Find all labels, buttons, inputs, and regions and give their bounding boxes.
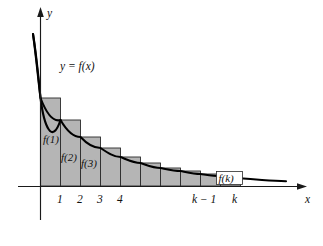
tick-label-3: 3 [96,193,103,205]
x-axis-label: x [304,193,311,205]
x-tick-labels: 1 2 3 4 k − 1 k [57,193,238,205]
riemann-rectangles [41,98,241,186]
y-axis-arrowhead [37,7,44,17]
curve-label: y = f(x) [59,60,95,73]
bar-label-f-k: f(k) [219,172,235,185]
integral-test-figure: y x y = f(x) f(1) f(2) f(3) f(k) 1 2 3 4… [0,0,323,246]
figure-canvas: y x y = f(x) f(1) f(2) f(3) f(k) 1 2 3 4… [0,0,323,246]
tick-label-k: k [232,193,238,205]
bar-label-f1: f(1) [43,133,59,146]
tick-label-4: 4 [117,193,123,205]
bar-label-f2: f(2) [61,151,77,164]
bar-label-f3: f(3) [81,157,97,170]
y-axis-label: y [46,7,53,20]
tick-label-1: 1 [57,193,63,205]
tick-label-2: 2 [77,193,83,205]
axes-group [18,7,307,220]
x-axis-arrowhead [297,183,307,190]
tick-label-k-minus-1: k − 1 [192,193,216,205]
